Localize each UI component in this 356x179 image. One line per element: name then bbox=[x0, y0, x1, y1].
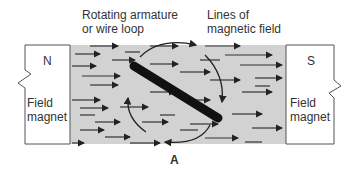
field-label-2: magnetic field bbox=[207, 22, 281, 36]
armature-label-2: or wire loop bbox=[82, 22, 144, 36]
south-pole-label: S bbox=[307, 54, 315, 68]
north-pole-label: N bbox=[43, 54, 52, 68]
right-magnet-label-1: Field bbox=[290, 96, 316, 110]
right-magnet-label-2: magnet bbox=[290, 110, 330, 124]
figure-caption: A bbox=[170, 153, 179, 167]
armature-label-1: Rotating armature bbox=[82, 8, 178, 22]
left-magnet-label-1: Field bbox=[27, 96, 53, 110]
left-magnet-label-2: magnet bbox=[27, 110, 67, 124]
field-label-1: Lines of bbox=[207, 8, 249, 22]
